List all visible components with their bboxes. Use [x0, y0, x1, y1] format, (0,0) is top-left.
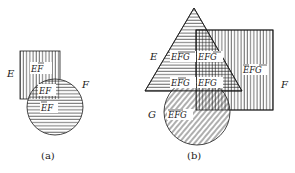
region-label: EFG	[242, 65, 262, 75]
region-e-not-f-g: EFG	[170, 77, 196, 88]
caption-b: (b)	[187, 150, 201, 161]
region-e-f-not-g: EFG	[197, 51, 223, 62]
region-label: EFG	[197, 52, 217, 62]
region-e-f-g: EFG	[197, 77, 223, 88]
region-label: EFG	[167, 110, 187, 120]
set-label-e: E	[149, 51, 158, 62]
figure-b: E F G EFG EFG EFG EFG EFG	[145, 8, 289, 161]
region-label: EF	[30, 64, 44, 74]
region-label: EF	[40, 103, 54, 113]
region-label: EFG	[197, 78, 217, 88]
region-not-e-not-f-g: EFG	[167, 109, 193, 120]
set-label-g: G	[148, 109, 156, 120]
figure-a: E F EF EF EF (a)	[6, 51, 90, 161]
region-not-e-f-not-g: EFG	[242, 64, 268, 75]
region-label: EFG	[170, 78, 190, 88]
region-label: EFG	[170, 52, 190, 62]
region-e-not-f: EF	[30, 62, 52, 74]
set-label-e: E	[6, 68, 15, 79]
region-e-not-f-not-g: EFG	[170, 51, 196, 62]
set-label-f: F	[81, 79, 90, 90]
venn-diagrams: E F EF EF EF (a)	[0, 0, 295, 173]
region-e-and-f: EF	[38, 84, 56, 96]
region-label: EF	[38, 86, 52, 96]
set-label-f: F	[280, 79, 289, 90]
region-not-e-f: EF	[40, 101, 58, 113]
caption-a: (a)	[41, 150, 55, 161]
